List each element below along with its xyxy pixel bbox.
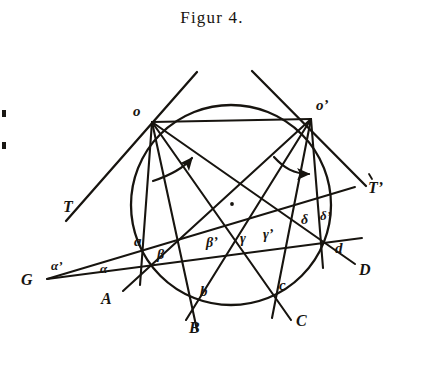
label-angle-delta-prime: δ’ — [320, 209, 331, 222]
label-point-b: b — [200, 284, 208, 299]
label-point-C: C — [296, 313, 307, 329]
label-angle-alpha-prime: α’ — [51, 259, 63, 272]
label-point-o: o — [133, 104, 141, 119]
ray-o-to-a — [140, 122, 152, 285]
label-angle-beta: β — [157, 248, 164, 262]
label-point-o-prime: o’ — [316, 98, 329, 113]
label-point-B: B — [189, 320, 200, 336]
label-angle-gamma: γ — [240, 232, 246, 246]
label-point-D: D — [359, 262, 371, 278]
label-point-c: c — [279, 278, 286, 293]
label-angle-alpha: α — [100, 262, 107, 275]
circle-center-dot — [230, 202, 234, 206]
label-angle-delta: δ — [301, 213, 308, 227]
label-point-T-prime: T’ — [368, 180, 383, 196]
label-angle-beta-prime: β’ — [206, 236, 218, 250]
label-point-A: A — [101, 291, 112, 307]
label-point-T: T — [63, 199, 73, 215]
label-point-G: G — [21, 272, 33, 288]
figure-root: Figur 4. — [0, 0, 424, 367]
line-G-to-circle-upper — [47, 187, 355, 279]
label-point-a: a — [134, 234, 142, 249]
figure-drawing-canvas — [0, 0, 424, 367]
label-angle-gamma-prime: γ’ — [263, 228, 274, 242]
label-point-d: d — [335, 241, 343, 256]
